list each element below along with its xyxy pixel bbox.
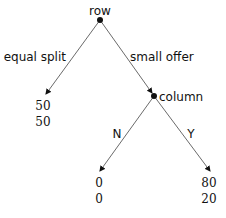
payoff-Y-column: 20	[201, 192, 216, 206]
edge-label-N: N	[113, 127, 122, 141]
edge-Y	[154, 96, 210, 171]
game-tree-diagram: row column equal split small offer N Y 5…	[0, 0, 226, 218]
edge-N	[100, 96, 154, 171]
node-label-row: row	[89, 4, 111, 18]
node-label-column: column	[159, 90, 203, 104]
payoff-N-row: 0	[95, 176, 103, 190]
payoff-equal-split-column: 50	[35, 115, 50, 129]
edge-label-small-offer: small offer	[130, 50, 194, 64]
edge-label-Y: Y	[186, 127, 195, 141]
payoff-N-column: 0	[95, 192, 103, 206]
node-column	[151, 93, 157, 99]
payoff-equal-split-row: 50	[35, 99, 50, 113]
payoff-Y-row: 80	[201, 176, 216, 190]
edge-label-equal-split: equal split	[4, 50, 67, 64]
